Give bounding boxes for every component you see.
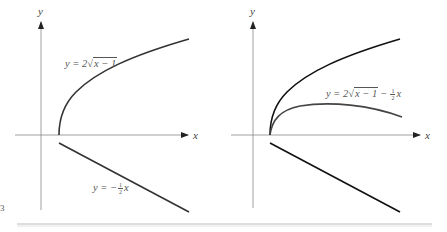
right-sum-equation: y = 2√x − 1 − 12x bbox=[326, 88, 401, 101]
right-panel bbox=[231, 22, 420, 212]
right-y-axis-label: y bbox=[250, 6, 255, 17]
eq-prefix: y = 2 bbox=[65, 58, 87, 69]
figure-canvas bbox=[0, 0, 447, 232]
right-sum-curve bbox=[270, 104, 402, 135]
left-line-equation: y = −12x bbox=[93, 182, 129, 195]
left-curve-equation: y = 2√x − 1 bbox=[65, 59, 117, 70]
right-negative-half-line bbox=[270, 143, 400, 212]
left-y-axis-label: y bbox=[38, 6, 43, 17]
frac-num: 1 bbox=[390, 88, 395, 95]
frac-den: 2 bbox=[118, 189, 123, 195]
eq-suffix: x bbox=[124, 182, 129, 193]
right-x-axis-label: x bbox=[425, 130, 430, 141]
frac-num: 1 bbox=[118, 182, 123, 189]
left-negative-half-line bbox=[59, 143, 189, 212]
eq-suffix: x bbox=[396, 88, 401, 99]
eq-prefix: y = − bbox=[93, 182, 117, 193]
eq-radicand: x − 1 bbox=[94, 58, 116, 69]
frac-den: 2 bbox=[390, 95, 395, 101]
eq-prefix: y = 2 bbox=[326, 88, 348, 99]
edge-glyph: 3 bbox=[0, 203, 5, 213]
eq-minus: − bbox=[378, 88, 389, 99]
left-x-axis-label: x bbox=[193, 130, 198, 141]
eq-radicand: x − 1 bbox=[355, 88, 377, 99]
left-sqrt-curve bbox=[59, 39, 189, 135]
